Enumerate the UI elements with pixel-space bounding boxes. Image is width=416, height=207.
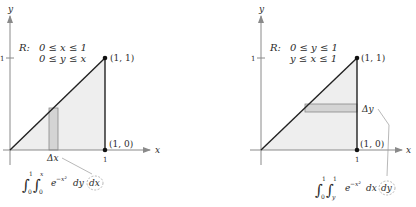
y-axis-label: y xyxy=(7,4,14,14)
svg-text:−x²: −x² xyxy=(350,180,361,187)
region-label: R: xyxy=(269,42,281,53)
vertical-strip xyxy=(49,108,58,150)
point-1-0 xyxy=(103,148,108,153)
svg-text:−x²: −x² xyxy=(56,175,67,182)
y-tick-label: 1 xyxy=(0,55,4,63)
svg-text:0: 0 xyxy=(28,188,32,195)
left-graph: y x 1 1 R: 0 ≤ x ≤ 1 0 ≤ y ≤ x (1, 1) (1… xyxy=(0,4,160,195)
x-tick-label: 1 xyxy=(355,156,359,164)
diagram-canvas: y x 1 1 R: 0 ≤ x ≤ 1 0 ≤ y ≤ x (1, 1) (1… xyxy=(0,0,416,207)
svg-text:dy: dy xyxy=(73,178,85,188)
point-1-0-label: (1, 0) xyxy=(109,139,133,149)
point-1-1-label: (1, 1) xyxy=(110,53,134,63)
point-1-1 xyxy=(103,56,108,61)
region-bound-1: 0 ≤ y ≤ 1 xyxy=(290,42,338,53)
callout-leader xyxy=(62,158,92,174)
region-bound-1: 0 ≤ x ≤ 1 xyxy=(39,42,87,53)
region-bound-2: 0 ≤ y ≤ x xyxy=(39,53,86,64)
point-1-1 xyxy=(355,56,360,61)
point-1-0 xyxy=(355,148,360,153)
x-axis-label: x xyxy=(406,145,411,155)
delta-x-label: Δx xyxy=(46,153,59,163)
right-graph: y x 1 1 R: 0 ≤ y ≤ 1 y ≤ x ≤ 1 (1, 1) (1… xyxy=(250,4,411,201)
delta-y-label: Δy xyxy=(361,104,374,114)
x-axis-label: x xyxy=(155,145,160,155)
y-tick-label: 1 xyxy=(251,55,255,63)
highlighted-dy: dy xyxy=(381,183,393,193)
highlighted-dx: dx xyxy=(89,178,100,188)
svg-text:x: x xyxy=(40,170,44,177)
y-axis-label: y xyxy=(258,4,265,14)
svg-text:dx: dx xyxy=(366,183,377,193)
svg-text:y: y xyxy=(331,193,336,201)
svg-text:1: 1 xyxy=(333,175,337,182)
svg-text:0: 0 xyxy=(39,188,43,195)
region-bound-2: y ≤ x ≤ 1 xyxy=(289,53,337,64)
svg-text:0: 0 xyxy=(321,193,325,200)
integral-expression: ∫ 1 0 ∫ 1 y e −x² dx dy xyxy=(315,175,395,201)
region-label: R: xyxy=(18,42,30,53)
x-tick-label: 1 xyxy=(103,156,107,164)
point-1-0-label: (1, 0) xyxy=(360,139,384,149)
point-1-1-label: (1, 1) xyxy=(361,53,385,63)
horizontal-strip xyxy=(305,104,357,112)
